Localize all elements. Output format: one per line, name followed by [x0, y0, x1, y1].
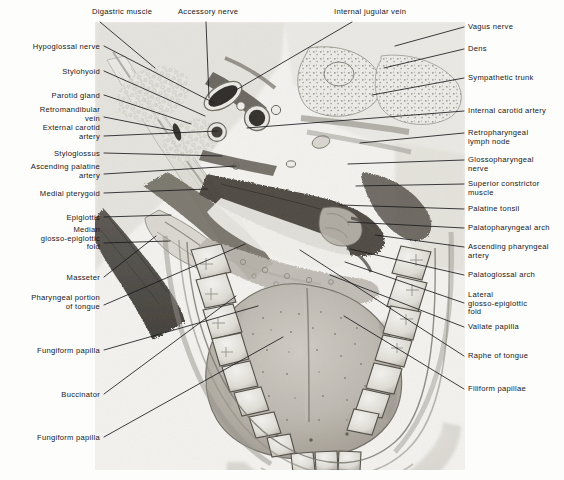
leader-median-glosso-epiglottic-fold — [104, 241, 170, 243]
label-ascending-palatine-artery: Ascending palatine artery — [0, 163, 100, 180]
label-pharyngeal-portion-of-tongue: Pharyngeal portion of tongue — [0, 294, 100, 311]
label-median-glosso-epiglottic-fold: Median glosso-epiglottic fold — [0, 226, 100, 252]
leader-superior-constrictor-muscle — [356, 184, 464, 186]
label-sympathetic-trunk: Sympathetic trunk — [468, 74, 562, 83]
leader-palatoglossal-arch — [350, 249, 464, 275]
leader-internal-jugular-vein — [236, 22, 352, 90]
leader-ascending-pharyngeal-artery — [375, 235, 464, 247]
leader-external-carotid-artery — [104, 131, 218, 136]
label-ascending-pharyngeal-artery: Ascending pharyngeal artery — [468, 243, 562, 260]
leader-buccinator — [104, 296, 236, 394]
leader-pharyngeal-portion-of-tongue — [104, 244, 245, 305]
leader-filiform-papillae — [344, 316, 464, 389]
leader-styloglossus — [104, 153, 222, 156]
label-palatopharyngeal-arch: Palatopharyngeal arch — [468, 224, 562, 233]
leader-retromandibular-vein — [104, 117, 175, 131]
label-parotid-gland: Parotid gland — [0, 92, 100, 101]
label-retropharyngeal-lymph-node: Retropharyngeal lymph node — [468, 129, 562, 146]
leader-hypoglossal-nerve — [104, 46, 214, 103]
leader-vagus-nerve — [395, 27, 464, 46]
leader-fungiform-papilla-upper — [104, 306, 258, 350]
leader-glossopharyngeal-nerve — [348, 160, 464, 164]
leader-accessory-nerve — [206, 22, 209, 98]
label-external-carotid-artery: External carotid artery — [0, 124, 100, 141]
label-styloglossus: Styloglossus — [0, 150, 100, 159]
label-internal-jugular-vein: Internal jugular vein — [334, 8, 562, 17]
label-palatine-tonsil: Palatine tonsil — [468, 205, 562, 214]
leader-retropharyngeal-lymph-node — [360, 133, 464, 143]
label-glossopharyngeal-nerve: Glossopharyngeal nerve — [468, 156, 562, 173]
leader-raphe-of-tongue — [300, 250, 464, 356]
label-stylohyoid: Stylohyoid — [0, 68, 100, 77]
label-buccinator: Buccinator — [0, 391, 100, 400]
leader-digastric-muscle — [100, 22, 155, 68]
label-fungiform-papilla-lower: Fungiform papilla — [0, 434, 100, 443]
label-dens: Dens — [468, 45, 562, 54]
leader-epiglottis — [104, 215, 171, 217]
label-filiform-papillae: Filiform papillae — [468, 385, 562, 394]
label-retromandibular-vein: Retromandibular vein — [0, 106, 100, 123]
label-superior-constrictor-muscle: Superior constrictor muscle — [468, 180, 562, 197]
leader-internal-carotid-artery — [247, 111, 464, 128]
label-vagus-nerve: Vagus nerve — [468, 23, 562, 32]
label-vallate-papilla: Vallate papilla — [468, 323, 562, 332]
leader-stylohyoid — [104, 71, 205, 116]
label-internal-carotid-artery: Internal carotid artery — [468, 107, 562, 116]
leader-lateral-glosso-epiglottic-fold — [345, 262, 464, 303]
label-masseter: Masseter — [0, 274, 100, 283]
leader-medial-pterygoid — [104, 189, 207, 193]
label-medial-pterygoid: Medial pterygoid — [0, 190, 100, 199]
label-raphe-of-tongue: Raphe of tongue — [468, 352, 562, 361]
label-epiglottis: Epiglottis — [0, 214, 100, 223]
label-fungiform-papilla-upper: Fungiform papilla — [0, 347, 100, 356]
label-lateral-glosso-epiglottic-fold: Lateral glosso-epiglottic fold — [468, 291, 562, 317]
leader-palatine-tonsil — [340, 205, 464, 209]
leader-dens — [384, 49, 464, 68]
leader-ascending-palatine-artery — [104, 166, 236, 174]
leader-sympathetic-trunk — [372, 78, 464, 95]
label-hypoglossal-nerve: Hypoglossal nerve — [0, 43, 100, 52]
leader-fungiform-papilla-lower — [104, 337, 283, 437]
anatomical-plate: Digastric muscleAccessory nerveInternal … — [0, 0, 564, 480]
label-palatoglossal-arch: Palatoglossal arch — [468, 271, 562, 280]
leader-palatopharyngeal-arch — [348, 222, 464, 228]
